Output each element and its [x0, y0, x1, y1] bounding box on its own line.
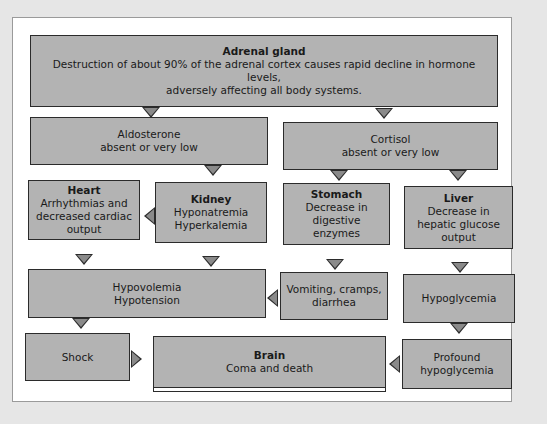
arrow-down-icon — [75, 254, 93, 265]
node-liver: Liver Decrease in hepatic glucose output — [404, 186, 513, 249]
node-hypovolemia: Hypovolemia Hypotension — [28, 269, 266, 318]
node-title: Brain — [254, 349, 285, 362]
node-text: Decrease in — [427, 205, 489, 218]
node-text: Destruction of about 90% of the adrenal … — [35, 58, 493, 84]
node-kidney: Kidney Hyponatremia Hyperkalemia — [155, 182, 267, 243]
node-shock: Shock — [25, 333, 130, 381]
arrow-right-icon — [131, 350, 142, 368]
node-profound-hypoglycemia: Profound hypoglycemia — [402, 339, 512, 389]
node-text: Aldosterone — [118, 128, 181, 141]
arrow-left-icon — [389, 355, 400, 373]
node-text: Vomiting, cramps, — [286, 283, 381, 296]
node-text: Hyperkalemia — [175, 219, 248, 232]
arrow-down-icon — [449, 170, 467, 181]
node-cortisol: Cortisol absent or very low — [283, 122, 498, 170]
node-heart: Heart Arrhythmias and decreased cardiac … — [28, 180, 140, 240]
node-text: Cortisol — [371, 133, 411, 146]
node-text: Decrease in — [305, 201, 367, 214]
node-text: output — [441, 231, 476, 244]
node-text: Profound — [434, 351, 481, 364]
node-title: Heart — [67, 184, 100, 197]
node-aldosterone: Aldosterone absent or very low — [30, 117, 268, 165]
node-title: Kidney — [191, 193, 232, 206]
arrow-down-icon — [330, 170, 348, 181]
node-text: Hyponatremia — [174, 206, 249, 219]
node-title: Adrenal gland — [223, 45, 306, 58]
node-title: Stomach — [311, 188, 363, 201]
arrow-down-icon — [451, 262, 469, 273]
node-text: decreased cardiac — [36, 210, 132, 223]
node-text: absent or very low — [342, 146, 440, 159]
arrow-left-icon — [267, 289, 278, 307]
node-text: absent or very low — [100, 141, 198, 154]
node-text: Arrhythmias and — [40, 197, 127, 210]
node-title: Liver — [444, 192, 473, 205]
node-text: digestive enzymes — [288, 214, 385, 240]
node-text: Hypovolemia — [113, 281, 182, 294]
node-text: Hypotension — [114, 294, 180, 307]
node-text: output — [67, 223, 102, 236]
arrow-down-icon — [326, 259, 344, 270]
node-text: hypoglycemia — [420, 364, 494, 377]
node-text: diarrhea — [312, 296, 356, 309]
node-hypoglycemia: Hypoglycemia — [403, 274, 515, 323]
brain-underline — [153, 388, 386, 392]
node-vomiting: Vomiting, cramps, diarrhea — [280, 272, 388, 320]
arrow-down-icon — [375, 108, 393, 119]
node-text: hepatic glucose — [417, 218, 500, 231]
node-stomach: Stomach Decrease in digestive enzymes — [283, 183, 390, 245]
arrow-left-icon — [144, 207, 155, 225]
arrow-down-icon — [202, 256, 220, 267]
arrow-down-icon — [450, 323, 468, 334]
node-text: Hypoglycemia — [422, 292, 497, 305]
node-text: adversely affecting all body systems. — [166, 84, 362, 97]
node-brain: Brain Coma and death — [153, 336, 386, 388]
node-text: Coma and death — [226, 362, 313, 375]
arrow-down-icon — [204, 165, 222, 176]
node-text: Shock — [62, 351, 94, 364]
arrow-down-icon — [72, 318, 90, 329]
node-adrenal-gland: Adrenal gland Destruction of about 90% o… — [30, 35, 498, 107]
